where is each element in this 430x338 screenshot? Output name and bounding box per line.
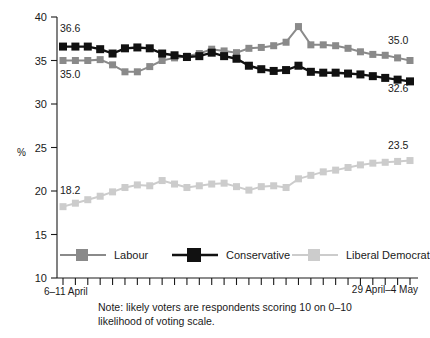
y-tick-label-20: 20 <box>35 185 47 197</box>
data-point <box>345 45 352 52</box>
y-tick-label-30: 30 <box>35 98 47 110</box>
data-point <box>320 168 327 175</box>
conservative-start-label: 36.6 <box>60 22 81 34</box>
data-point <box>109 61 116 68</box>
legend-marker-conservative <box>187 248 201 262</box>
data-point <box>72 57 79 64</box>
series-liberal-democrat <box>60 157 414 210</box>
data-point <box>245 187 252 194</box>
poll-trend-chart: 10152025303540 % 6–11 April 29 April–4 M… <box>0 0 430 338</box>
series-labour <box>60 23 414 75</box>
data-series-group <box>59 23 414 210</box>
x-axis-start-label: 6–11 April <box>44 286 88 297</box>
chart-canvas: 10152025303540 % 6–11 April 29 April–4 M… <box>0 0 430 338</box>
data-point <box>332 69 340 77</box>
legend-item-liberal-democrat[interactable]: Liberal Democrat <box>292 249 430 261</box>
data-point <box>134 181 141 188</box>
data-point <box>344 70 352 78</box>
data-point <box>183 53 191 61</box>
data-point <box>84 196 91 203</box>
data-point <box>407 157 414 164</box>
data-point <box>320 41 327 48</box>
data-point <box>84 43 92 51</box>
legend-marker-labour <box>76 249 88 261</box>
data-point <box>97 193 104 200</box>
data-point <box>133 43 141 51</box>
data-point <box>171 181 178 188</box>
data-point <box>295 23 302 30</box>
data-point <box>307 41 314 48</box>
y-tick-label-35: 35 <box>35 55 47 67</box>
chart-note: Note: likely voters are respondents scor… <box>98 301 352 327</box>
data-point <box>381 74 389 82</box>
data-point <box>295 175 302 182</box>
data-point <box>382 159 389 166</box>
data-point <box>84 57 91 64</box>
data-point <box>394 158 401 165</box>
y-tick-label-40: 40 <box>35 11 47 23</box>
data-point <box>345 164 352 171</box>
data-point <box>109 50 117 58</box>
libdem-end-label: 23.5 <box>388 139 409 151</box>
data-point <box>221 180 228 187</box>
data-point <box>60 203 67 210</box>
libdem-start-label: 18.2 <box>60 184 81 196</box>
data-point <box>245 45 252 52</box>
x-axis: 6–11 April 29 April–4 May <box>44 278 418 297</box>
data-point <box>158 50 166 58</box>
data-point <box>146 182 153 189</box>
data-point <box>283 184 290 191</box>
data-point <box>407 57 414 64</box>
data-point <box>96 45 104 53</box>
legend-marker-libdem <box>308 249 320 261</box>
data-point <box>332 42 339 49</box>
data-point <box>208 181 215 188</box>
data-point <box>72 200 79 207</box>
data-point <box>270 67 278 75</box>
note-line-1: Note: likely voters are respondents scor… <box>98 301 352 313</box>
data-point <box>159 177 166 184</box>
data-point <box>270 42 277 49</box>
data-point <box>60 57 67 64</box>
legend-label-conservative: Conservative <box>226 249 290 261</box>
data-point <box>183 184 190 191</box>
data-point <box>233 183 240 190</box>
data-point <box>245 62 253 70</box>
conservative-end-label: 32.6 <box>388 82 409 94</box>
y-tick-label-25: 25 <box>35 142 47 154</box>
data-point <box>208 49 216 57</box>
x-axis-end-label: 29 April–4 May <box>352 284 418 295</box>
data-point <box>258 183 265 190</box>
chart-legend: Labour Conservative Liberal Democrat <box>60 248 430 262</box>
data-point <box>394 54 401 61</box>
data-point <box>196 182 203 189</box>
data-point <box>307 68 315 76</box>
data-point <box>195 52 203 60</box>
legend-label-labour: Labour <box>114 249 149 261</box>
data-point <box>357 161 364 168</box>
data-point <box>146 44 154 52</box>
data-point <box>233 55 241 63</box>
data-point <box>283 39 290 46</box>
labour-start-label: 35.0 <box>60 68 81 80</box>
data-point <box>332 167 339 174</box>
note-line-2: likelihood of voting scale. <box>98 315 215 327</box>
data-point <box>356 70 364 78</box>
data-point <box>357 48 364 55</box>
y-axis-title: % <box>17 147 26 158</box>
y-tick-label-10: 10 <box>35 272 47 284</box>
data-point <box>270 182 277 189</box>
data-point <box>159 57 166 64</box>
data-point <box>59 43 67 51</box>
legend-item-labour[interactable]: Labour <box>60 249 149 261</box>
data-point <box>121 44 129 52</box>
data-point <box>369 160 376 167</box>
labour-end-label: 35.0 <box>388 34 409 46</box>
y-tick-labels: 10152025303540 <box>35 11 47 284</box>
endpoint-annotations: 36.6 35.0 18.2 35.0 32.6 23.5 <box>60 22 409 196</box>
y-axis: 10152025303540 % <box>17 11 57 284</box>
data-point <box>319 69 327 77</box>
data-point <box>109 188 116 195</box>
legend-item-conservative[interactable]: Conservative <box>172 248 290 262</box>
legend-label-libdem: Liberal Democrat <box>346 249 430 261</box>
